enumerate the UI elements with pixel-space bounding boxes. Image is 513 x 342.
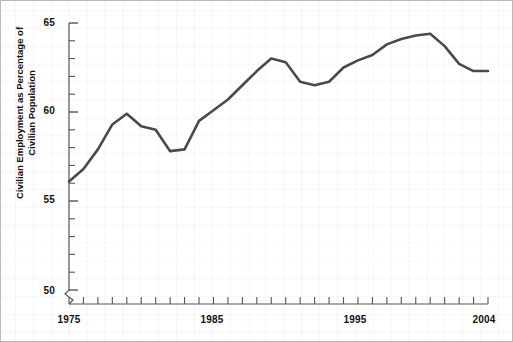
x-axis-group: [69, 297, 488, 304]
y-axis-group: [65, 23, 78, 304]
plot-area: [1, 1, 513, 342]
x-axis-ticks: [69, 297, 488, 304]
y-axis-ticks: [69, 23, 78, 290]
data-series-line: [69, 34, 488, 182]
chart-figure: Civilian Employment as Percentage of Civ…: [0, 0, 513, 342]
